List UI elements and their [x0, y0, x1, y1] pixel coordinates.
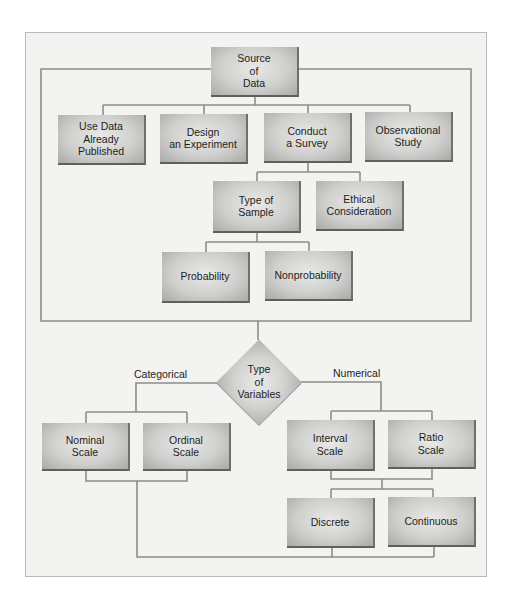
node-ethical-consideration: Ethical Consideration — [316, 181, 404, 231]
node-nominal-scale: Nominal Scale — [42, 423, 130, 471]
node-discrete: Discrete — [287, 498, 375, 548]
edge-label-numerical: Numerical — [333, 367, 380, 379]
node-ratio-scale: Ratio Scale — [388, 420, 476, 469]
node-probability: Probability — [162, 252, 250, 303]
node-continuous: Continuous — [388, 497, 476, 547]
node-nonprobability: Nonprobability — [265, 251, 353, 301]
decision-type-of-variables: Type of Variables — [217, 339, 301, 425]
node-interval-scale: Interval Scale — [287, 420, 375, 471]
edge-label-categorical: Categorical — [134, 368, 187, 380]
node-source-of-data: Source of Data — [211, 47, 299, 97]
node-use-data-already-published: Use Data Already Published — [58, 115, 146, 165]
node-ordinal-scale: Ordinal Scale — [143, 423, 231, 471]
node-conduct-a-survey: Conduct a Survey — [264, 113, 352, 163]
node-design-an-experiment: Design an Experiment — [160, 114, 248, 164]
node-type-of-sample: Type of Sample — [213, 181, 301, 233]
node-observational-study: Observational Study — [365, 112, 453, 162]
